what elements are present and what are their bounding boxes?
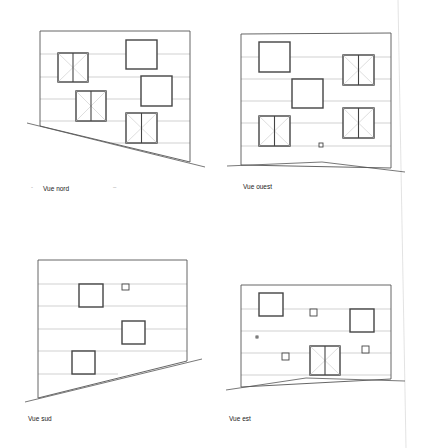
double-door-window	[126, 113, 157, 143]
window-frame	[141, 76, 172, 106]
square-window	[72, 351, 95, 374]
elevation-ouest	[227, 33, 405, 172]
square-window	[319, 143, 323, 147]
elevation-sud	[25, 260, 202, 402]
square-window	[362, 346, 369, 353]
elevation-est	[226, 285, 405, 390]
window-frame	[126, 40, 157, 69]
window-frame	[259, 42, 290, 72]
double-door-window	[259, 116, 290, 146]
window-frame	[79, 284, 103, 307]
facade-drawing-canvas	[0, 0, 424, 448]
stray-dash-mark: –	[113, 184, 116, 190]
ground-line	[227, 162, 405, 172]
view-label-sud: Vue sud	[28, 415, 52, 422]
square-window	[282, 353, 289, 360]
double-door-window	[310, 346, 340, 375]
window-frame	[282, 353, 289, 360]
window-frame	[72, 351, 95, 374]
double-door-window	[58, 53, 88, 82]
square-window	[122, 321, 145, 344]
window-frame	[362, 346, 369, 353]
window-frame	[319, 143, 323, 147]
view-label-est: Vue est	[229, 415, 251, 422]
elevation-nord	[27, 31, 205, 167]
square-window	[79, 284, 103, 307]
square-window	[126, 40, 157, 69]
square-window	[256, 336, 258, 338]
ground-line	[226, 378, 405, 390]
window-frame	[122, 284, 129, 290]
square-window	[310, 309, 317, 316]
window-frame	[259, 293, 283, 316]
stray-dash-mark: -	[31, 184, 33, 190]
view-label-nord: Vue nord	[43, 185, 69, 192]
window-frame	[350, 309, 374, 332]
square-window	[292, 79, 323, 108]
square-window	[141, 76, 172, 106]
window-frame	[256, 336, 258, 338]
window-frame	[122, 321, 145, 344]
ground-line	[27, 123, 205, 167]
double-door-window	[343, 55, 374, 85]
window-frame	[292, 79, 323, 108]
window-frame	[310, 309, 317, 316]
square-window	[350, 309, 374, 332]
double-door-window	[76, 91, 106, 121]
view-label-ouest: Vue ouest	[243, 183, 272, 190]
square-window	[259, 293, 283, 316]
square-window	[259, 42, 290, 72]
ground-line	[25, 359, 202, 402]
square-window	[122, 284, 129, 290]
double-door-window	[343, 108, 374, 138]
